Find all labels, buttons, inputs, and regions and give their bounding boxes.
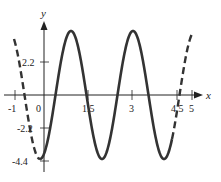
x-ticks: -1 0 1.5 3 4.5 5 [8,90,194,114]
curve-dashed-right [172,32,193,139]
x-tick-label: 5 [189,103,194,114]
y-axis-label: y [40,7,46,19]
x-tick-label: -1 [8,103,16,114]
y-tick-label: 2.2 [22,57,35,68]
x-axis-label: x [205,89,211,101]
y-tick-label: -4.4 [12,156,28,167]
x-tick-label: 3 [129,103,134,114]
y-axis-arrow-icon [41,21,48,30]
x-tick-label: 0 [36,103,41,114]
x-axis-arrow-icon [194,92,203,99]
y-ticks: 2.2 -2.2 -4.4 [12,57,49,167]
sinusoid-graph: x y -1 0 1.5 3 4.5 5 2.2 -2.2 -4.4 [0,0,221,182]
